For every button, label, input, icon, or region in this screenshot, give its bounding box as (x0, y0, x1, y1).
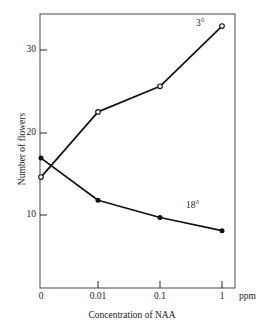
series-warm-marker (39, 156, 44, 161)
x-tick-label-0.1: 0.1 (144, 291, 176, 301)
series-warm-marker (220, 228, 225, 233)
y-axis-title: Number of flowers (17, 79, 27, 219)
x-tick-marks (98, 281, 222, 288)
chart-figure: 30 20 10 0 0.01 0.1 1 ppm Concentration … (0, 0, 264, 332)
x-tick-label-1: 1 (210, 291, 234, 301)
y-tick-marks (40, 50, 47, 215)
series-warm-marker (158, 215, 163, 220)
series-line-cold (39, 24, 225, 180)
plot-frame-rect (40, 14, 235, 288)
series-cold-marker (39, 175, 44, 180)
series-label-cold: 3° (196, 18, 205, 28)
series-cold-path (41, 26, 222, 177)
x-tick-label-0.01: 0.01 (80, 291, 116, 301)
series-cold-marker (158, 84, 163, 89)
plot-frame (40, 14, 235, 288)
x-tick-label-0: 0 (28, 291, 54, 301)
series-cold-marker (220, 24, 225, 29)
series-warm-path (41, 158, 222, 231)
series-line-warm (39, 156, 225, 234)
series-cold-marker (96, 110, 101, 115)
x-axis-title: Concentration of NAA (0, 310, 264, 320)
series-label-warm: 18° (186, 200, 199, 210)
plot-area (0, 0, 264, 332)
series-warm-marker (96, 198, 101, 203)
x-axis-unit-label: ppm (239, 291, 256, 301)
y-tick-label-30: 30 (10, 44, 36, 54)
